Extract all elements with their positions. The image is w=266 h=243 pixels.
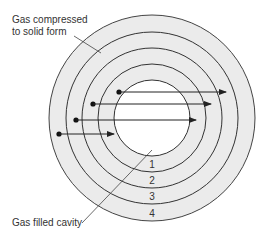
gas-layers-diagram: Gas compressed to solid form Gas filled …	[0, 0, 266, 243]
ring-number-2: 2	[149, 175, 155, 186]
ring-number-1: 1	[149, 159, 155, 170]
gas-filled-cavity	[114, 80, 190, 156]
label-gas-filled-cavity: Gas filled cavity	[12, 217, 82, 228]
ring-number-3: 3	[149, 191, 155, 202]
label-solid-form: to solid form	[12, 26, 66, 37]
ring-number-4: 4	[149, 208, 155, 219]
label-gas-compressed: Gas compressed	[12, 14, 88, 25]
